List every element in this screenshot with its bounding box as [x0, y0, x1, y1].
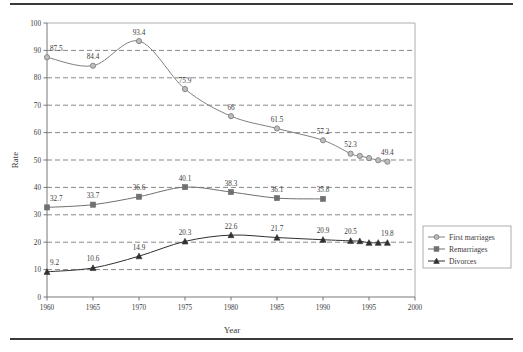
data-point-label: 20.5 [344, 228, 357, 236]
legend-label: First marriages [449, 233, 495, 242]
y-tick-label: 0 [37, 294, 41, 302]
point-labels: 87.584.493.475.96661.557.252.349.432.733… [50, 29, 394, 268]
marker-square [44, 205, 49, 210]
y-tick-label: 70 [34, 102, 42, 110]
x-tick-label: 2000 [408, 304, 423, 312]
x-tick-label: 1985 [270, 304, 285, 312]
marker-circle [376, 158, 381, 163]
legend-label: Divorces [449, 257, 476, 266]
data-point-label: 49.4 [381, 149, 394, 157]
marker-circle [228, 114, 233, 119]
data-point-label: 87.5 [50, 45, 63, 53]
data-point-label: 33.7 [87, 192, 100, 200]
data-point-label: 93.4 [133, 29, 146, 37]
marker-circle [44, 55, 49, 60]
series-line [47, 235, 387, 272]
y-tick-label: 10 [34, 266, 42, 274]
marker-square [228, 189, 233, 194]
data-point-label: 20.3 [179, 229, 192, 237]
y-tick-label: 90 [34, 47, 42, 55]
y-axis-title: Rate [10, 152, 20, 169]
marker-square [136, 194, 141, 199]
data-point-label: 52.3 [344, 141, 357, 149]
data-point-label: 57.2 [317, 128, 330, 136]
data-point-label: 61.5 [271, 116, 284, 124]
data-point-label: 35.8 [317, 186, 330, 194]
y-axis-ticks: 0102030405060708090100 [30, 20, 47, 302]
y-tick-label: 100 [30, 20, 41, 28]
marker-square [274, 195, 279, 200]
x-axis-ticks: 196019651970197519801985199019952000 [40, 297, 423, 312]
marker-circle [90, 63, 95, 68]
data-point-label: 36.6 [133, 184, 146, 192]
figure-root: 196019651970197519801985199019952000 010… [0, 0, 523, 352]
data-point-label: 9.2 [50, 259, 59, 267]
y-tick-label: 30 [34, 211, 42, 219]
x-tick-label: 1995 [362, 304, 377, 312]
x-tick-label: 1960 [40, 304, 55, 312]
y-tick-label: 50 [34, 157, 42, 165]
data-point-label: 36.1 [271, 186, 284, 194]
y-tick-label: 40 [34, 184, 42, 192]
x-axis-title: Year [224, 325, 241, 335]
marker-square [182, 185, 187, 190]
marker-circle [274, 126, 279, 131]
data-point-label: 38.3 [225, 180, 238, 188]
marker-circle [136, 38, 141, 43]
x-tick-label: 1980 [224, 304, 239, 312]
marker-circle [348, 151, 353, 156]
line-chart: 196019651970197519801985199019952000 010… [0, 0, 523, 352]
x-tick-label: 1975 [178, 304, 193, 312]
x-tick-label: 1965 [86, 304, 101, 312]
x-tick-label: 1970 [132, 304, 147, 312]
data-point-label: 14.9 [133, 244, 146, 252]
marker-circle [366, 155, 371, 160]
marker-square [320, 196, 325, 201]
y-tick-label: 80 [34, 74, 42, 82]
series-container [44, 38, 390, 274]
marker-square [434, 247, 439, 252]
data-point-label: 21.7 [271, 225, 284, 233]
data-point-label: 22.6 [225, 223, 238, 231]
data-point-label: 40.1 [179, 175, 192, 183]
marker-circle [182, 86, 187, 91]
data-point-label: 20.9 [317, 227, 330, 235]
y-tick-label: 20 [34, 239, 42, 247]
marker-circle [357, 153, 362, 158]
x-tick-label: 1990 [316, 304, 331, 312]
data-point-label: 19.8 [381, 230, 394, 238]
chart-legend[interactable]: First marriagesRemarriagesDivorces [423, 226, 511, 268]
y-tick-label: 60 [34, 129, 42, 137]
marker-circle [320, 138, 325, 143]
legend-label: Remarriages [449, 245, 487, 254]
data-point-label: 32.7 [50, 195, 63, 203]
data-point-label: 66 [227, 104, 235, 112]
data-point-label: 10.6 [87, 255, 100, 263]
marker-circle [385, 159, 390, 164]
marker-square [90, 202, 95, 207]
series-divorces [44, 232, 390, 274]
marker-circle [434, 235, 439, 240]
data-point-label: 75.9 [179, 77, 192, 85]
data-point-label: 84.4 [87, 53, 100, 61]
